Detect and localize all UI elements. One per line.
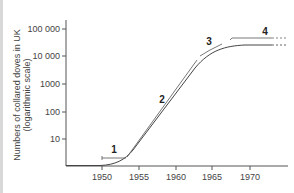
phase-4-segment xyxy=(230,38,272,40)
y-tick-100: 100 xyxy=(45,107,60,117)
y-axis-label-line2: (logarithmic scale) xyxy=(22,58,32,131)
y-ticks xyxy=(62,29,66,139)
phase-label-4: 4 xyxy=(262,26,268,37)
y-axis-label-line1: Numbers of collared doves in UK xyxy=(12,29,22,161)
y-axis-label: Numbers of collared doves in UK (logarit… xyxy=(12,29,32,161)
y-tick-labels: 100 000 10 000 1000 100 10 xyxy=(27,24,60,144)
y-tick-10000: 10 000 xyxy=(32,51,60,61)
x-tick-1970: 1970 xyxy=(240,172,260,182)
phase-label-1: 1 xyxy=(111,144,117,155)
x-tick-1950: 1950 xyxy=(92,172,112,182)
phase-label-2: 2 xyxy=(159,94,165,105)
population-curve xyxy=(66,45,272,166)
population-chart: 100 000 10 000 1000 100 10 1950 1955 196… xyxy=(0,0,294,193)
x-tick-labels: 1950 1955 1960 1965 1970 xyxy=(92,172,260,182)
x-ticks xyxy=(102,166,250,170)
x-tick-1965: 1965 xyxy=(202,172,222,182)
y-tick-10: 10 xyxy=(50,134,60,144)
x-tick-1960: 1960 xyxy=(166,172,186,182)
x-tick-1955: 1955 xyxy=(129,172,149,182)
y-tick-100000: 100 000 xyxy=(27,24,60,34)
phase-label-3: 3 xyxy=(206,36,212,47)
phase-2-segment xyxy=(127,60,197,157)
y-tick-1000: 1000 xyxy=(40,79,60,89)
phase-annotation-line xyxy=(102,38,272,160)
